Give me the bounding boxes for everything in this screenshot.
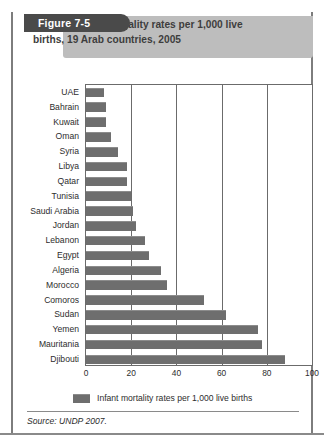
footer-divider	[27, 411, 299, 412]
bar	[86, 147, 118, 157]
bar	[86, 88, 104, 98]
bar-row	[86, 263, 312, 278]
source-note: Source: UNDP 2007.	[27, 416, 107, 426]
bar-row	[86, 100, 312, 115]
bar-series	[86, 85, 312, 365]
bar	[86, 355, 285, 365]
bar	[86, 117, 106, 127]
page-bottom-rule	[0, 433, 324, 435]
bar	[86, 340, 262, 350]
figure-title-line-2: births, 19 Arab countries, 2005	[33, 32, 307, 47]
bar-row	[86, 144, 312, 159]
figure-card: Figure 7-5 Infant mortality rates per 1,…	[11, 12, 313, 433]
y-axis-label: Algeria	[13, 263, 83, 278]
bar	[86, 325, 258, 335]
y-axis-label: Syria	[13, 144, 83, 159]
bar-row	[86, 293, 312, 308]
bar	[86, 206, 133, 216]
bar-row	[86, 278, 312, 293]
bar-row	[86, 322, 312, 337]
bar-row	[86, 115, 312, 130]
figure-header: Figure 7-5 Infant mortality rates per 1,…	[13, 12, 313, 60]
bar-row	[86, 337, 312, 352]
bar	[86, 251, 149, 261]
x-axis-tick-label: 0	[84, 368, 89, 378]
y-axis-label: Kuwait	[13, 115, 83, 130]
legend-swatch	[73, 394, 90, 403]
y-axis-label: Yemen	[13, 322, 83, 337]
y-axis-label: Sudan	[13, 307, 83, 322]
plot-area	[85, 84, 313, 366]
bar	[86, 310, 226, 320]
bar-row	[86, 352, 312, 367]
y-axis-label: UAE	[13, 85, 83, 100]
bar-row	[86, 204, 312, 219]
y-axis-label: Oman	[13, 129, 83, 144]
y-axis-label: Qatar	[13, 174, 83, 189]
bar	[86, 236, 145, 246]
x-axis-tick-label: 100	[305, 368, 319, 378]
x-axis-tick-labels: 020406080100	[85, 368, 313, 382]
bar	[86, 295, 204, 305]
bar	[86, 132, 111, 142]
y-axis-category-labels: UAEBahrainKuwaitOmanSyriaLibyaQatarTunis…	[13, 85, 83, 367]
bar	[86, 162, 127, 172]
y-axis-label: Lebanon	[13, 233, 83, 248]
bar	[86, 266, 161, 276]
y-axis-label: Egypt	[13, 248, 83, 263]
y-axis-label: Tunisia	[13, 189, 83, 204]
y-axis-label: Djibouti	[13, 352, 83, 367]
bar-row	[86, 218, 312, 233]
y-axis-label: Comoros	[13, 293, 83, 308]
bar	[86, 280, 167, 290]
y-axis-label: Mauritania	[13, 337, 83, 352]
bar-row	[86, 174, 312, 189]
x-axis-tick-label: 40	[172, 368, 181, 378]
bar-row	[86, 307, 312, 322]
y-axis-label: Libya	[13, 159, 83, 174]
bar-row	[86, 233, 312, 248]
x-axis-tick-label: 60	[217, 368, 226, 378]
bar-chart: UAEBahrainKuwaitOmanSyriaLibyaQatarTunis…	[13, 62, 313, 382]
legend-label: Infant mortality rates per 1,000 live bi…	[97, 393, 252, 403]
bar	[86, 177, 127, 187]
bar-row	[86, 129, 312, 144]
y-axis-label: Morocco	[13, 278, 83, 293]
x-axis-tick-label: 80	[262, 368, 271, 378]
bar-row	[86, 159, 312, 174]
bar	[86, 221, 136, 231]
chart-legend: Infant mortality rates per 1,000 live bi…	[13, 390, 313, 406]
x-axis-tick-label: 20	[127, 368, 136, 378]
y-axis-label: Bahrain	[13, 100, 83, 115]
bar-row	[86, 189, 312, 204]
bar	[86, 191, 131, 201]
bar-row	[86, 85, 312, 100]
y-axis-label: Jordan	[13, 218, 83, 233]
bar-row	[86, 248, 312, 263]
bar	[86, 102, 106, 112]
figure-number-tag: Figure 7-5	[24, 14, 130, 32]
y-axis-label: Saudi Arabia	[13, 204, 83, 219]
